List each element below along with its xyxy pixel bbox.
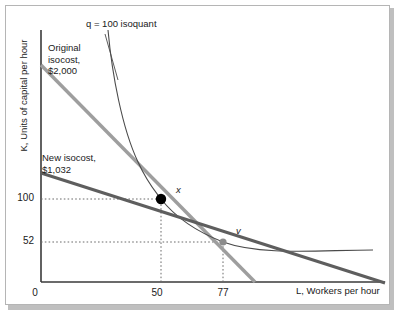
figure-root: K, Units of capital per hour L, Workers … <box>0 0 403 322</box>
original-isocost-annotation: Original isocost, $2,000 <box>48 42 81 77</box>
isoquant-leader-line <box>105 34 118 80</box>
data-point-x <box>156 194 166 204</box>
data-point-v-label: v <box>236 225 241 236</box>
new-isocost-annotation: New isocost, $1,032 <box>42 152 96 175</box>
origin-label: 0 <box>28 287 42 298</box>
x-axis-title: L, Workers per hour <box>296 285 380 296</box>
y-tick-label-52: 52 <box>6 235 34 246</box>
isoquant-annotation: q = 100 isoquant <box>86 18 157 30</box>
new-isocost-line <box>41 173 385 283</box>
isoquant-curve <box>108 30 373 251</box>
guide-lines <box>41 199 223 282</box>
x-tick-label-50: 50 <box>148 287 166 298</box>
y-axis-title: K, Units of capital per hour <box>18 21 29 171</box>
data-point-v <box>219 238 226 245</box>
x-tick-label-77: 77 <box>214 287 232 298</box>
y-tick-label-100: 100 <box>6 192 34 203</box>
data-point-x-label: x <box>176 184 181 195</box>
